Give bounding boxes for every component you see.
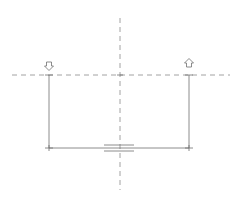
down-arrow-icon xyxy=(45,62,54,71)
right-corner-tick xyxy=(185,145,193,151)
diagram-canvas xyxy=(0,0,245,203)
up-arrow-icon xyxy=(185,59,194,68)
left-corner-tick xyxy=(45,145,53,151)
